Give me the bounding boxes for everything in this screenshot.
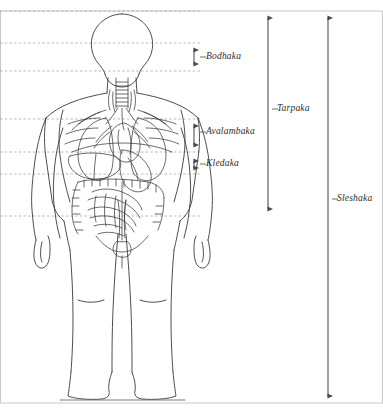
label-tarpaka: Tarpaka <box>277 103 310 113</box>
large-intestine <box>72 179 164 234</box>
knee-right <box>140 300 166 302</box>
diagram-canvas <box>0 0 383 414</box>
hip-right <box>174 221 180 250</box>
arm-right-outer <box>198 118 212 240</box>
anatomical-diagram: Bodhaka Avalambaka Kledaka Tarpaka Slesh… <box>0 0 383 414</box>
trachea <box>116 78 128 108</box>
head-outline <box>91 14 152 74</box>
knee-left <box>78 300 104 302</box>
shoulder-right <box>137 93 198 118</box>
measure-arrow-kledaka <box>194 161 206 168</box>
arm-left-outer <box>32 118 46 240</box>
leg-left-inner <box>112 234 118 372</box>
shoulder-left <box>46 93 107 118</box>
foot-right <box>132 372 176 399</box>
liver-lobe-line <box>94 154 96 179</box>
measure-arrow-tarpaka <box>268 18 278 209</box>
small-intestine <box>88 189 142 236</box>
label-avalambaka: Avalambaka <box>206 126 255 136</box>
label-bodhaka: Bodhaka <box>206 51 241 61</box>
lung-left <box>78 118 113 181</box>
measurement-arrows <box>194 18 338 396</box>
pulmonary-vessels <box>94 126 150 148</box>
arm-right-inner <box>181 128 191 238</box>
neck-outline <box>107 78 137 93</box>
leg-right-outer <box>171 250 174 372</box>
bladder <box>113 242 131 257</box>
label-kledaka: Kledaka <box>206 158 239 168</box>
hand-right <box>194 236 210 268</box>
hand-left <box>34 236 50 268</box>
measure-arrow-bodhaka <box>194 50 206 64</box>
frame-border <box>0 11 383 403</box>
jaw-outline <box>105 74 139 87</box>
internal-organs <box>65 78 179 268</box>
arm-left-inner <box>53 128 63 238</box>
hip-left <box>64 221 70 250</box>
foot-left <box>68 372 112 399</box>
leg-left-outer <box>70 250 73 372</box>
measure-arrow-sleshaka <box>328 18 338 396</box>
label-sleshaka: Sleshaka <box>337 193 372 203</box>
